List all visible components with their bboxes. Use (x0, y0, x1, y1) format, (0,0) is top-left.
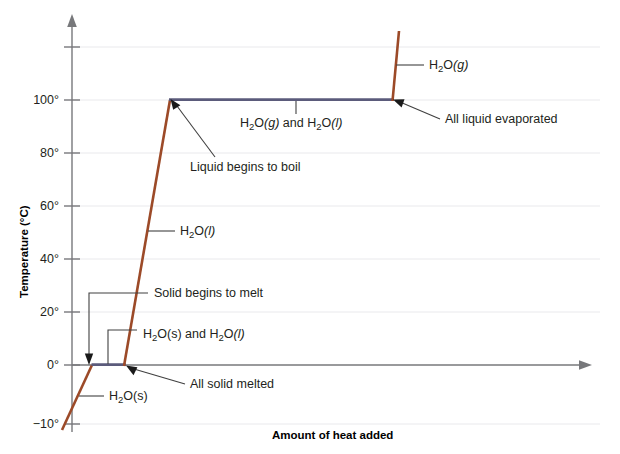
y-tick-label-60: 60° (40, 199, 59, 213)
gl-O2: O (321, 116, 331, 130)
h2o-g-O: O (443, 58, 453, 72)
sl-O1: O (157, 327, 167, 341)
gridlines (72, 47, 600, 424)
x-axis-title: Amount of heat added (272, 429, 393, 441)
gl-state2: (l) (331, 116, 342, 130)
h2o-l-state: (l) (204, 224, 215, 238)
y-tick-label-20: 20° (40, 305, 59, 319)
annotation-all-liquid-evaporated: All liquid evaporated (445, 112, 558, 126)
annotation-h2o-solid-and-liquid: H2O(s) and H2O(l) (143, 327, 245, 343)
annotation-solid-begins-to-melt: Solid begins to melt (154, 286, 264, 300)
annotation-labels: H2O(g) All liquid evaporated H2O(g) and … (109, 58, 558, 405)
y-axis-title: Temperature (°C) (18, 205, 30, 298)
y-tick-label-minus10: −10° (33, 417, 59, 431)
h2o-g-state: (g) (453, 58, 468, 72)
leader-solid-begins-to-melt (89, 293, 148, 355)
gl-O1: O (254, 116, 264, 130)
annotation-liquid-begins-to-boil: Liquid begins to boil (190, 160, 301, 174)
sl-H2: H (209, 327, 218, 341)
h2o-s-H: H (109, 389, 118, 403)
leader-all-liquid-evaporated (400, 102, 440, 119)
annotation-h2o-solid: H2O(s) (109, 389, 148, 405)
y-tick-label-80: 80° (40, 146, 59, 160)
h2o-g-H: H (429, 58, 438, 72)
y-axis-arrowhead (67, 14, 77, 27)
gl-H2: H (307, 116, 316, 130)
gl-state1: (g) (264, 116, 279, 130)
sl-state2: (l) (234, 327, 245, 341)
curve-segment-solid-heating (62, 365, 92, 430)
sl-H1: H (143, 327, 152, 341)
annotation-h2o-liquid: H2O(l) (180, 224, 215, 240)
curve-segment-gas-heating (393, 31, 400, 101)
h2o-l-H: H (180, 224, 189, 238)
leader-h2o-solid-and-liquid (108, 330, 137, 364)
sl-O2: O (224, 327, 234, 341)
sl-and: and (182, 327, 210, 341)
y-tick-labels: 100° 80° 60° 40° 20° 0° −10° (33, 93, 59, 431)
h2o-s-state: (s) (133, 389, 148, 403)
heating-curve-lines (62, 31, 399, 430)
annotation-all-solid-melted: All solid melted (190, 377, 274, 391)
arrowhead-all-solid-melted (126, 366, 137, 376)
heating-curve-chart: 100° 80° 60° 40° 20° 0° −10° Temperature… (0, 0, 620, 454)
axes (67, 14, 592, 432)
heating-curve-figure: 100° 80° 60° 40° 20° 0° −10° Temperature… (0, 0, 620, 454)
annotation-h2o-gas-and-liquid: H2O(g) and H2O(l) (240, 116, 342, 132)
arrowhead-solid-begins-to-melt (85, 354, 93, 366)
gl-H1: H (240, 116, 249, 130)
y-tick-label-40: 40° (40, 252, 59, 266)
h2o-s-O: O (123, 389, 133, 403)
sl-state1: (s) (167, 327, 182, 341)
y-tick-label-100: 100° (33, 93, 59, 107)
arrowhead-all-liquid-evaporated (393, 99, 405, 107)
leader-liquid-begins-to-boil (177, 106, 215, 157)
leader-all-solid-melted (134, 369, 185, 384)
annotation-leaders (79, 65, 440, 396)
gl-and: and (279, 116, 307, 130)
y-tick-label-0: 0° (47, 358, 59, 372)
annotation-h2o-gas: H2O(g) (429, 58, 468, 74)
h2o-l-O: O (194, 224, 204, 238)
x-axis-arrowhead (579, 360, 592, 370)
